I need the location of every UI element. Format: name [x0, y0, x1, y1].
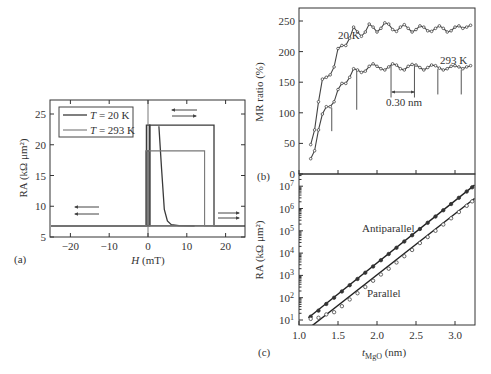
x-tick-label: −20: [62, 240, 80, 252]
data-point: [419, 66, 422, 69]
data-point: [321, 78, 324, 81]
data-point: [356, 292, 359, 295]
data-point: [364, 70, 367, 73]
data-point: [387, 252, 390, 255]
data-point: [387, 66, 390, 69]
data-point: [418, 227, 421, 230]
legend-label-20k: T = 20 K: [90, 109, 130, 121]
x-tick-label: 2.5: [409, 329, 423, 341]
data-point: [341, 44, 344, 47]
data-point: [348, 76, 351, 79]
data-point: [454, 26, 457, 29]
period-label: 0.30 nm: [386, 96, 423, 108]
data-point: [360, 71, 363, 74]
data-point: [391, 28, 394, 31]
data-point: [434, 64, 437, 67]
data-point: [313, 129, 316, 132]
data-point: [309, 143, 312, 146]
data-point: [434, 27, 437, 30]
data-point: [348, 284, 351, 287]
data-point: [337, 47, 340, 50]
data-point: [430, 30, 433, 33]
data-point: [469, 24, 472, 27]
panel-c-axis-ticks: 1.01.52.02.53.0101102103104105106107: [279, 176, 462, 341]
data-point: [423, 69, 426, 72]
data-point: [415, 64, 418, 67]
data-point: [380, 27, 383, 30]
data-point: [380, 67, 383, 70]
panel-c-label: (c): [258, 346, 271, 359]
panel-a-ylabel: RA (kΩ μm²): [17, 138, 30, 197]
y-tick-label: 150: [279, 76, 296, 88]
data-point: [442, 209, 445, 212]
data-point: [438, 67, 441, 70]
data-point: [442, 27, 445, 30]
data-point: [399, 26, 402, 29]
panel-c-ylabel: RA (kΩ μm²): [253, 220, 266, 279]
data-point: [317, 100, 320, 103]
arrowhead-right-icon: [193, 114, 197, 117]
data-point: [470, 200, 473, 203]
data-point: [325, 302, 328, 305]
x-tick-label: 3.0: [448, 329, 462, 341]
data-point: [469, 64, 472, 67]
data-point: [395, 246, 398, 249]
data-point: [442, 223, 445, 226]
data-point: [364, 31, 367, 34]
label-antiparallel: Antiparallel: [362, 222, 415, 234]
data-point: [379, 259, 382, 262]
sweep-arrows-left: [74, 205, 99, 215]
data-point: [407, 65, 410, 68]
data-point: [329, 105, 332, 108]
data-point: [387, 267, 390, 270]
data-point: [434, 215, 437, 218]
data-point: [395, 261, 398, 264]
panel-b-axis-ticks: 050100150200250: [279, 15, 456, 180]
data-point: [329, 74, 332, 77]
data-point: [426, 221, 429, 224]
data-point: [430, 64, 433, 67]
data-point: [458, 25, 461, 28]
data-point: [348, 298, 351, 301]
y-tick-label: 103: [279, 268, 294, 281]
data-point: [449, 217, 452, 220]
x-tick-label: 10: [181, 240, 193, 252]
y-tick-label: 200: [279, 46, 296, 58]
arrowhead-right-icon: [236, 216, 240, 219]
data-point: [438, 25, 441, 28]
y-tick-label: 0: [290, 168, 296, 180]
data-point: [317, 309, 320, 312]
data-point: [415, 28, 418, 31]
panel-a-legend: T = 20 K T = 293 K: [59, 107, 135, 137]
panel-a: −20−1001020510152025 T = 20 K T = 293 K: [14, 100, 245, 267]
data-point: [371, 265, 374, 268]
panel-b: 050100150200250 20 K 293 K 0.30 nm (b) M…: [253, 8, 475, 183]
data-point: [333, 100, 336, 103]
y-tick-label: 105: [279, 224, 294, 237]
data-point: [419, 25, 422, 28]
y-tick-label: 102: [279, 291, 294, 304]
data-point: [395, 64, 398, 67]
data-point: [403, 240, 406, 243]
arrowhead-left-icon: [74, 205, 78, 208]
legend-label-293k: T = 293 K: [90, 124, 135, 136]
data-point: [360, 35, 363, 38]
data-point: [403, 23, 406, 26]
data-point: [426, 235, 429, 238]
data-point: [325, 105, 328, 108]
data-point: [341, 82, 344, 85]
data-point: [345, 82, 348, 85]
data-point: [462, 67, 465, 70]
data-point: [313, 149, 316, 152]
y-tick-label: 101: [279, 313, 294, 326]
data-point: [376, 31, 379, 34]
data-point: [356, 69, 359, 72]
y-tick-label: 10: [35, 200, 47, 212]
data-point: [364, 271, 367, 274]
data-point: [403, 69, 406, 72]
data-point: [462, 27, 465, 30]
data-point: [391, 63, 394, 66]
data-point: [372, 26, 375, 29]
data-point: [449, 202, 452, 205]
arrowhead-left-icon: [171, 108, 175, 111]
